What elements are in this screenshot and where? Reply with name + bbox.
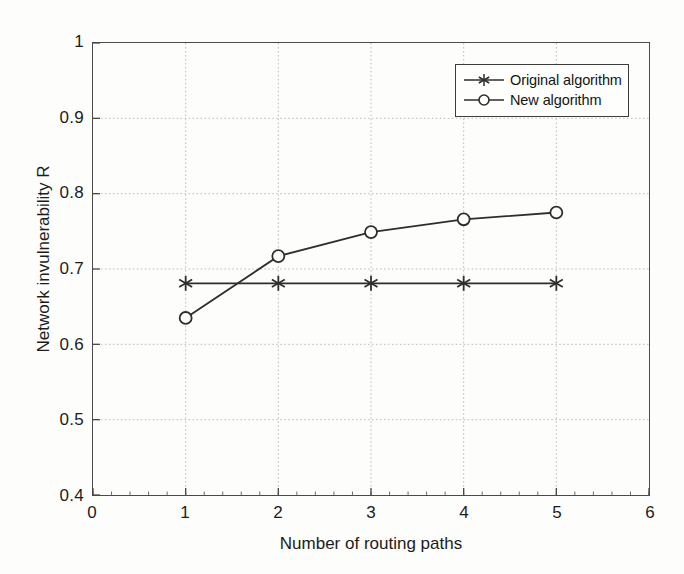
y-axis-title: Network invulnerability R: [34, 32, 54, 486]
data-point-circle: [272, 250, 284, 262]
data-point-circle: [458, 213, 470, 225]
y-tick-label: 0.5: [59, 410, 84, 430]
data-point-circle: [365, 226, 377, 238]
x-tick-label: 3: [366, 503, 375, 523]
x-tick-label: 2: [273, 503, 282, 523]
y-tick-label: 0.7: [59, 259, 84, 279]
data-point-circle: [550, 207, 562, 219]
asterisk-marker-icon: [463, 71, 505, 89]
y-tick-label: 0.8: [59, 183, 84, 203]
chart-figure: 0.40.50.60.70.80.91 Network invulnerabil…: [0, 0, 684, 574]
x-tick-label: 6: [645, 503, 654, 523]
circle-marker-icon: [463, 91, 505, 109]
chart-legend: Original algorithm New algorithm: [455, 64, 629, 117]
x-axis-tick-labels: 0123456: [92, 503, 650, 527]
legend-entry-new-algorithm: New algorithm: [463, 90, 621, 110]
y-tick-label: 0.4: [59, 486, 84, 506]
x-tick-label: 0: [87, 503, 96, 523]
x-tick-label: 4: [459, 503, 468, 523]
x-tick-label: 1: [180, 503, 189, 523]
legend-label: Original algorithm: [510, 72, 622, 88]
x-tick-label: 5: [552, 503, 561, 523]
legend-entry-original-algorithm: Original algorithm: [463, 70, 621, 90]
legend-label: New algorithm: [510, 92, 601, 108]
y-tick-label: 0.6: [59, 335, 84, 355]
data-point-circle: [180, 312, 192, 324]
y-tick-label: 0.9: [59, 108, 84, 128]
x-axis-title: Number of routing paths: [92, 534, 650, 554]
y-tick-label: 1: [74, 32, 84, 52]
